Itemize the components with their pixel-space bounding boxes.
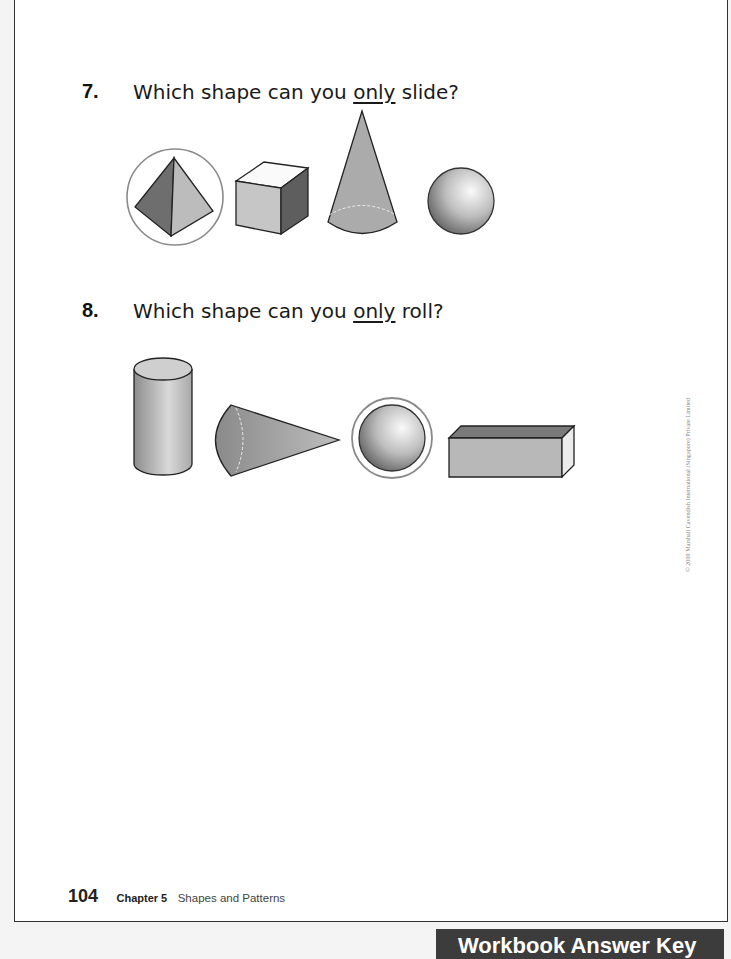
pyramid-shape	[127, 149, 223, 245]
question-text-part: Which shape can you	[133, 299, 353, 323]
chapter-label: Chapter 5	[117, 892, 168, 904]
sphere-shape	[428, 168, 494, 234]
sphere-shape	[352, 398, 432, 478]
cone-shape	[216, 405, 340, 476]
question-8-text: Which shape can you only roll?	[133, 299, 444, 323]
page-number: 104	[68, 886, 98, 906]
page-footer: 104 Chapter 5 Shapes and Patterns	[68, 886, 285, 907]
workbook-answer-key-tab: Workbook Answer Key	[436, 929, 724, 959]
question-emphasis: only	[353, 299, 395, 323]
rectangular-prism-shape	[449, 426, 574, 477]
question-text-part: roll?	[395, 299, 443, 323]
cone-shape	[328, 111, 397, 234]
cylinder-shape	[134, 358, 192, 475]
cube-shape	[236, 162, 308, 234]
chapter-title: Shapes and Patterns	[178, 892, 285, 904]
copyright-notice: © 2009 Marshall Cavendish International …	[684, 398, 691, 572]
question-8-number: 8.	[82, 299, 99, 322]
